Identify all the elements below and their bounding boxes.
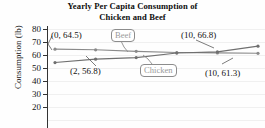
callout-tails <box>0 0 265 128</box>
tail-chicken <box>143 55 152 64</box>
chart-figure: Yearly Per Capita Consumption of Chicken… <box>0 0 265 128</box>
tail-beef <box>121 41 128 52</box>
